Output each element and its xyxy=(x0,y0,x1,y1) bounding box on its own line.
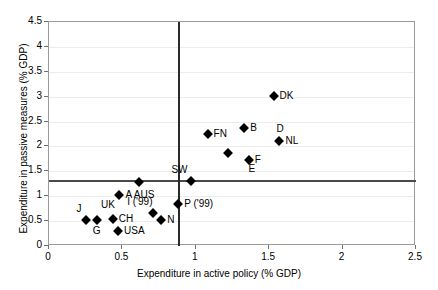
data-point-marker xyxy=(115,190,125,200)
x-axis-tick xyxy=(121,245,122,249)
data-point-marker xyxy=(81,215,91,225)
y-axis-tick-label: 3.5 xyxy=(28,66,42,76)
y-axis-tick-label: 1 xyxy=(36,190,42,200)
y-axis-tick xyxy=(44,220,48,221)
data-point-marker xyxy=(134,177,144,187)
x-axis-tick xyxy=(342,245,343,249)
data-point-label: CH xyxy=(119,214,133,224)
y-axis-tick xyxy=(44,195,48,196)
y-axis-tick-label: 0 xyxy=(36,240,42,250)
data-point-marker xyxy=(148,208,158,218)
y-axis-tick xyxy=(44,46,48,47)
y-axis-tick xyxy=(44,96,48,97)
data-point-marker xyxy=(113,226,123,236)
data-point-label: SW xyxy=(171,165,187,175)
y-axis-tick-label: 4.5 xyxy=(28,16,42,26)
horizontal-reference-line xyxy=(49,180,416,182)
data-point-label: P ('99) xyxy=(184,199,213,209)
y-axis-tick xyxy=(44,21,48,22)
y-axis-tick xyxy=(44,71,48,72)
data-point-label: NL xyxy=(285,136,298,146)
plot-area: DKBFNNLDFSWEA AUSP ('99)I ('99)UKCHJGNUS… xyxy=(48,21,415,245)
y-axis-tick xyxy=(44,121,48,122)
data-point-marker xyxy=(173,199,183,209)
x-axis-tick xyxy=(415,245,416,249)
y-axis-tick-label: 2.5 xyxy=(28,116,42,126)
data-point-label: G xyxy=(93,226,101,236)
data-point-marker xyxy=(186,176,196,186)
data-point-label: DK xyxy=(280,91,294,101)
x-axis-tick xyxy=(48,245,49,249)
data-point-label: N xyxy=(167,215,174,225)
data-point-label: E xyxy=(249,164,256,174)
data-point-label: FN xyxy=(214,129,227,139)
y-axis-tick xyxy=(44,145,48,146)
x-axis-tick-label: 2.5 xyxy=(408,252,422,262)
data-point-label: J xyxy=(76,204,81,214)
gridline xyxy=(49,47,414,48)
gridline xyxy=(49,196,414,197)
vertical-reference-line xyxy=(178,22,180,246)
data-point-marker xyxy=(92,215,102,225)
gridline xyxy=(49,171,414,172)
gridline xyxy=(49,221,414,222)
x-axis-tick xyxy=(195,245,196,249)
scatter-chart: DKBFNNLDFSWEA AUSP ('99)I ('99)UKCHJGNUS… xyxy=(0,0,438,290)
y-axis-tick-label: 3 xyxy=(36,91,42,101)
y-axis-tick xyxy=(44,170,48,171)
data-point-marker xyxy=(156,215,166,225)
data-point-label: D xyxy=(276,124,283,134)
x-axis-tick xyxy=(268,245,269,249)
data-point-marker xyxy=(223,148,233,158)
x-axis-tick-label: 0.5 xyxy=(114,252,128,262)
y-axis-tick-label: 4 xyxy=(36,41,42,51)
gridline xyxy=(49,97,414,98)
y-axis-tick-label: 2 xyxy=(36,140,42,150)
data-point-label: I ('99) xyxy=(127,197,152,207)
x-axis-tick-label: 1.5 xyxy=(261,252,275,262)
data-point-marker xyxy=(239,123,249,133)
x-axis-tick-label: 2 xyxy=(339,252,345,262)
data-point-marker xyxy=(269,91,279,101)
x-axis-tick-label: 0 xyxy=(45,252,51,262)
gridline xyxy=(49,146,414,147)
y-axis-tick-label: 1.5 xyxy=(28,165,42,175)
y-axis-tick-label: 0.5 xyxy=(28,215,42,225)
y-axis-title: Expenditure in passive measures (% GDP) xyxy=(18,24,29,254)
data-point-marker xyxy=(203,129,213,139)
data-point-marker xyxy=(275,137,285,147)
x-axis-tick-label: 1 xyxy=(192,252,198,262)
gridline xyxy=(49,72,414,73)
gridline xyxy=(49,122,414,123)
x-axis-title: Expenditure in active policy (% GDP) xyxy=(0,268,438,279)
data-point-label: UK xyxy=(101,200,115,210)
data-point-label: B xyxy=(250,123,257,133)
data-point-label: USA xyxy=(124,226,145,236)
